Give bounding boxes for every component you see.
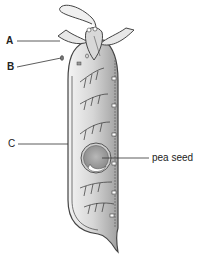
label-b: B [7,62,14,72]
pea-pod-illustration [0,0,205,261]
stalk [60,5,96,28]
label-pea-seed: pea seed [152,153,193,163]
sepal-right [100,28,134,45]
pea-pod-diagram: A B C pea seed [0,0,205,261]
label-a: A [6,36,13,46]
label-c: C [8,139,15,149]
sepal-left [58,30,88,44]
